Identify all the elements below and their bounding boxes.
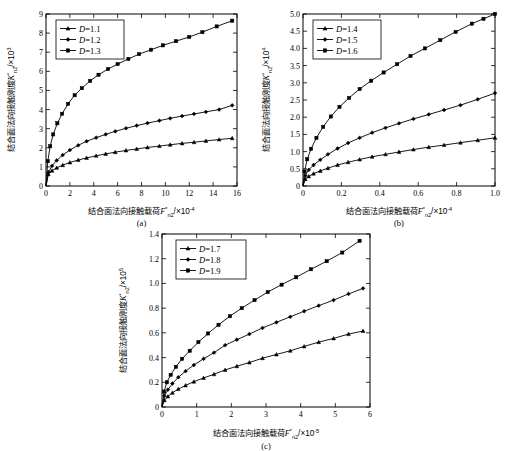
data-point-marker bbox=[66, 49, 69, 52]
y-tick-label: 4.0 bbox=[290, 44, 300, 53]
data-point-marker bbox=[240, 307, 243, 310]
data-point-marker bbox=[306, 158, 309, 161]
legend-label: D=1.3 bbox=[78, 46, 101, 56]
x-tick-label: 0.2 bbox=[336, 189, 346, 198]
data-point-marker bbox=[280, 283, 283, 286]
x-tick-label: 6 bbox=[116, 189, 120, 198]
y-tick-label: 4.5 bbox=[290, 27, 300, 36]
y-tick-label: 0.8 bbox=[149, 304, 159, 313]
data-point-marker bbox=[228, 315, 231, 318]
data-point-marker bbox=[303, 170, 306, 173]
x-tick-label: 2 bbox=[229, 410, 233, 419]
data-point-marker bbox=[338, 105, 341, 108]
data-point-marker bbox=[470, 22, 473, 25]
data-point-marker bbox=[174, 365, 177, 368]
y-tick-label: 3.0 bbox=[290, 79, 300, 88]
data-point-marker bbox=[217, 323, 220, 326]
data-point-marker bbox=[323, 49, 326, 52]
y-tick-label: 2.0 bbox=[290, 113, 300, 122]
data-point-marker bbox=[423, 47, 426, 50]
data-point-marker bbox=[161, 44, 164, 47]
chart-a: 02468101214160123456789D=1.1D=1.2D=1.3结合… bbox=[0, 0, 257, 228]
y-tick-label: 1.0 bbox=[149, 279, 159, 288]
data-point-marker bbox=[439, 39, 442, 42]
data-point-marker bbox=[56, 122, 59, 125]
data-point-marker bbox=[395, 63, 398, 66]
x-tick-label: 1.0 bbox=[490, 189, 500, 198]
data-point-marker bbox=[66, 102, 69, 105]
y-tick-label: 6 bbox=[39, 67, 43, 76]
chart-b: 00.20.40.60.81.000.51.01.52.02.53.03.54.… bbox=[255, 0, 515, 228]
data-point-marker bbox=[97, 73, 100, 76]
x-tick-label: 14 bbox=[209, 189, 217, 198]
chart-c: 012345600.20.40.60.81.01.21.4D=1.7D=1.8D… bbox=[100, 222, 400, 451]
x-tick-label: 16 bbox=[233, 189, 241, 198]
x-tick-label: 1 bbox=[195, 410, 199, 419]
data-point-marker bbox=[46, 160, 49, 163]
data-point-marker bbox=[127, 57, 130, 60]
legend-label: D=1.8 bbox=[198, 255, 221, 265]
data-point-marker bbox=[175, 40, 178, 43]
data-point-marker bbox=[215, 25, 218, 28]
legend-label: D=1.7 bbox=[198, 244, 221, 254]
data-point-marker bbox=[341, 251, 344, 254]
data-point-marker bbox=[61, 112, 64, 115]
data-point-marker bbox=[370, 79, 373, 82]
x-tick-label: 4 bbox=[92, 189, 96, 198]
x-tick-label: 0.6 bbox=[413, 189, 423, 198]
data-point-marker bbox=[188, 349, 191, 352]
x-tick-label: 0.4 bbox=[375, 189, 385, 198]
data-point-marker bbox=[409, 54, 412, 57]
x-tick-label: 4 bbox=[299, 410, 303, 419]
y-tick-label: 1.0 bbox=[290, 148, 300, 157]
data-point-marker bbox=[315, 136, 318, 139]
x-tick-label: 6 bbox=[368, 410, 372, 419]
data-point-marker bbox=[188, 35, 191, 38]
data-point-marker bbox=[322, 125, 325, 128]
x-tick-label: 8 bbox=[140, 189, 144, 198]
data-point-marker bbox=[197, 341, 200, 344]
data-point-marker bbox=[165, 381, 168, 384]
x-tick-label: 2 bbox=[68, 189, 72, 198]
x-tick-label: 0.8 bbox=[452, 189, 462, 198]
legend-label: D=1.9 bbox=[198, 266, 221, 276]
data-point-marker bbox=[106, 67, 109, 70]
y-tick-label: 0.5 bbox=[290, 165, 300, 174]
data-point-marker bbox=[180, 357, 183, 360]
data-point-marker bbox=[49, 145, 52, 148]
data-point-marker bbox=[482, 17, 485, 20]
data-point-marker bbox=[309, 147, 312, 150]
data-point-marker bbox=[169, 373, 172, 376]
legend-label: D=1.6 bbox=[335, 46, 358, 56]
data-point-marker bbox=[89, 79, 92, 82]
y-tick-label: 1.2 bbox=[149, 255, 159, 264]
panel-caption: (c) bbox=[261, 441, 271, 451]
x-tick-label: 0 bbox=[44, 189, 48, 198]
y-tick-label: 7 bbox=[39, 48, 43, 57]
data-point-marker bbox=[295, 276, 298, 279]
y-tick-label: 2 bbox=[39, 144, 43, 153]
data-point-marker bbox=[493, 12, 496, 15]
y-tick-label: 3 bbox=[39, 125, 43, 134]
data-point-marker bbox=[266, 290, 269, 293]
y-tick-label: 0 bbox=[296, 182, 300, 191]
subplot-a: 02468101214160123456789D=1.1D=1.2D=1.3结合… bbox=[0, 0, 257, 228]
y-tick-label: 5.0 bbox=[290, 10, 300, 19]
y-tick-label: 2.5 bbox=[290, 96, 300, 105]
data-point-marker bbox=[253, 298, 256, 301]
y-tick-label: 8 bbox=[39, 29, 43, 38]
data-point-marker bbox=[201, 31, 204, 34]
y-tick-label: 0.2 bbox=[149, 378, 159, 387]
legend-label: D=1.4 bbox=[335, 24, 358, 34]
data-point-marker bbox=[358, 239, 361, 242]
y-tick-label: 5 bbox=[39, 86, 43, 95]
y-tick-label: 1 bbox=[39, 163, 43, 172]
data-point-marker bbox=[162, 390, 165, 393]
y-tick-label: 0 bbox=[155, 403, 159, 412]
x-tick-label: 0 bbox=[160, 410, 164, 419]
x-tick-label: 3 bbox=[264, 410, 268, 419]
data-point-marker bbox=[329, 115, 332, 118]
data-point-marker bbox=[137, 53, 140, 56]
subplot-c: 012345600.20.40.60.81.01.21.4D=1.7D=1.8D… bbox=[100, 222, 400, 451]
y-tick-label: 1.5 bbox=[290, 130, 300, 139]
